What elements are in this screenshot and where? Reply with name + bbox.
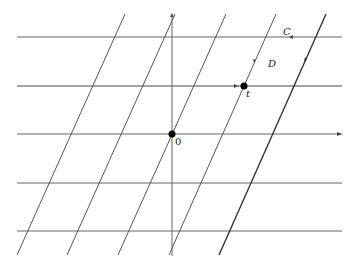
label-d: D bbox=[267, 58, 276, 69]
arrowheads bbox=[170, 13, 342, 136]
label-c: C bbox=[283, 26, 291, 37]
label-origin: 0 bbox=[175, 136, 181, 147]
label-t: t bbox=[246, 88, 251, 99]
axis-arrow-icon bbox=[337, 132, 342, 136]
horizontal-lines bbox=[17, 37, 342, 231]
direction-arrow-icon bbox=[234, 84, 238, 88]
lattice-diagram: C D t 0 bbox=[0, 0, 357, 268]
